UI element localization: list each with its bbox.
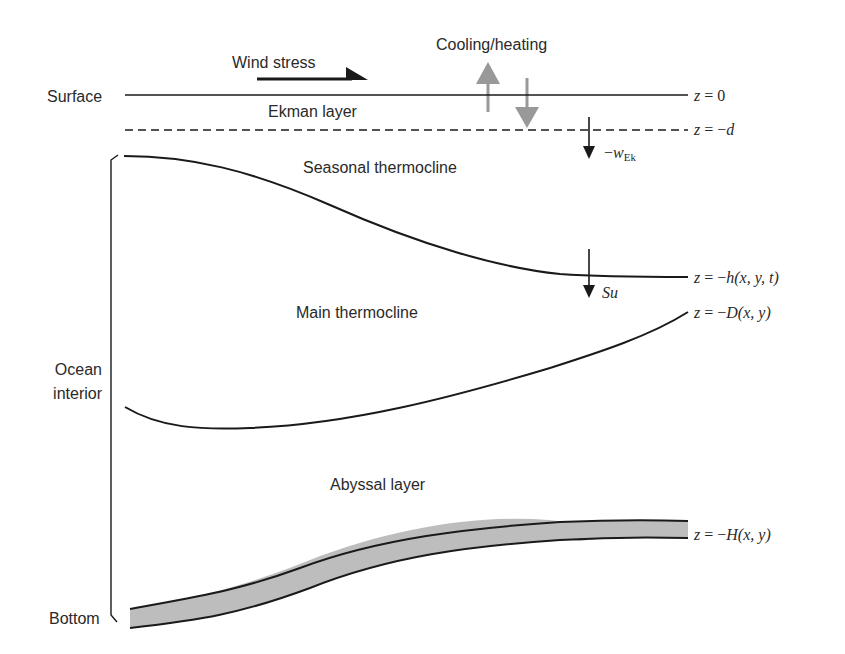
ocean-bottom-outline <box>0 0 845 654</box>
